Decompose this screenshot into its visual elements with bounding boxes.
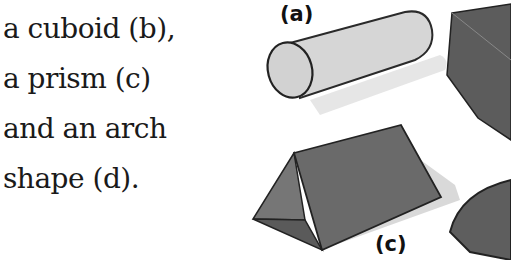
shapes-illustration [0,0,511,260]
label-a: (a) [280,2,313,26]
label-c: (c) [375,232,407,256]
cuboid-shape [447,4,511,140]
arch-shape [450,180,511,260]
prism-shape [253,125,441,250]
